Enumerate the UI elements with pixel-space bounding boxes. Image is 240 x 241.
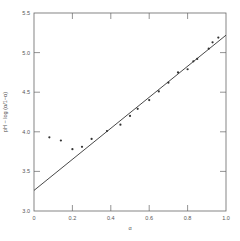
data-point [129, 115, 131, 117]
y-tick-label: 3.5 [22, 168, 30, 174]
data-point [81, 146, 83, 148]
chart: 00.20.40.60.81.0 3.03.54.04.55.05.5 α pH… [0, 0, 240, 241]
data-point [48, 136, 50, 138]
data-point [177, 71, 179, 73]
data-point [91, 138, 93, 140]
data-point [196, 58, 198, 60]
data-point [71, 148, 73, 150]
data-point [167, 82, 169, 84]
x-axis-title: α [128, 225, 132, 231]
data-point [148, 99, 150, 101]
x-tick-label: 0.8 [184, 215, 192, 221]
data-point [192, 60, 194, 62]
x-tick-label: 0.6 [145, 215, 153, 221]
data-point [211, 41, 213, 43]
y-tick-label: 4.5 [22, 89, 30, 95]
y-axis-title: pH − log (α/1−α) [2, 92, 8, 132]
y-tick-label: 4.0 [22, 129, 30, 135]
x-tick-label: 1.0 [222, 215, 230, 221]
x-tick-label: 0.2 [69, 215, 77, 221]
data-point [106, 130, 108, 132]
data-point [217, 36, 219, 38]
x-axis: 00.20.40.60.81.0 [32, 13, 229, 221]
plot-frame [34, 13, 226, 211]
y-tick-label: 5.0 [22, 50, 30, 56]
y-tick-label: 3.0 [22, 208, 30, 214]
data-point [158, 90, 160, 92]
x-tick-label: 0.4 [107, 215, 115, 221]
y-axis: 3.03.54.04.55.05.5 [22, 10, 226, 214]
y-tick-label: 5.5 [22, 10, 30, 16]
data-point [60, 139, 62, 141]
data-point [208, 48, 210, 50]
data-point [137, 108, 139, 110]
data-point [119, 124, 121, 126]
x-tick-label: 0 [32, 215, 35, 221]
data-point [187, 68, 189, 70]
data-points [48, 36, 219, 150]
